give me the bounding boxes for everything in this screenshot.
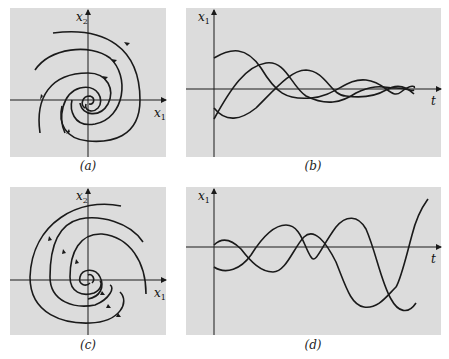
x2-axis-label: x2 [76,10,88,26]
panel-c-unstable-focus: x2 x1 [10,187,166,335]
caption-b: (b) [304,159,321,173]
x2-axis-label: x2 [76,189,88,205]
phase-portrait-c [10,187,166,335]
growing-curves [214,199,428,311]
caption-d: (d) [304,338,321,352]
panel-b-damped-oscillation: x1 t [186,8,441,157]
phase-portrait-a [10,8,166,157]
x1-axis-label: x1 [154,106,166,122]
panel-a-stable-focus: x2 x1 [10,8,166,157]
time-series-b [186,8,441,157]
t-axis-label: t [431,252,436,266]
damped-curves [214,51,414,119]
x1-axis-label: x1 [198,189,210,205]
t-axis-label: t [431,94,436,108]
panel-d-growing-oscillation: x1 t [186,187,441,335]
x1-axis-label: x1 [198,10,210,26]
caption-a: (a) [80,159,97,173]
direction-arrows [48,236,121,317]
x1-axis-label: x1 [154,286,166,302]
caption-c: (c) [80,338,96,352]
time-series-d [186,187,441,335]
